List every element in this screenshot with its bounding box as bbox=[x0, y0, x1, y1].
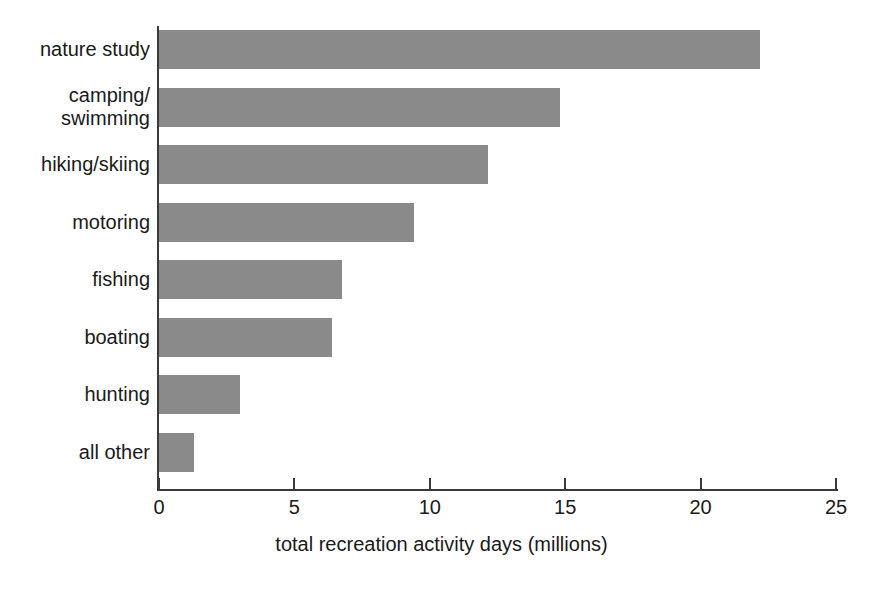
bar bbox=[159, 145, 488, 184]
x-axis-tick-label: 25 bbox=[806, 496, 866, 519]
bar bbox=[159, 203, 414, 242]
x-axis-tick bbox=[293, 478, 295, 490]
category-label-line: boating bbox=[0, 326, 150, 349]
category-label-line: nature study bbox=[0, 38, 150, 61]
category-label-line: swimming bbox=[0, 107, 150, 130]
bar-chart: nature studycamping/swimminghiking/skiin… bbox=[0, 0, 883, 601]
category-label: nature study bbox=[0, 38, 150, 61]
category-label-line: hiking/skiing bbox=[0, 153, 150, 176]
category-label: hiking/skiing bbox=[0, 153, 150, 176]
bar bbox=[159, 375, 240, 414]
x-axis-tick bbox=[564, 478, 566, 490]
category-label-line: fishing bbox=[0, 268, 150, 291]
bar bbox=[159, 30, 760, 69]
category-label-line: all other bbox=[0, 441, 150, 464]
x-axis-tick-label: 20 bbox=[671, 496, 731, 519]
category-label-line: motoring bbox=[0, 211, 150, 234]
category-label-line: camping/ bbox=[0, 84, 150, 107]
x-axis-tick bbox=[835, 478, 837, 490]
x-axis-tick-label: 15 bbox=[535, 496, 595, 519]
bar bbox=[159, 433, 194, 472]
category-label-line: hunting bbox=[0, 383, 150, 406]
bar bbox=[159, 260, 342, 299]
bar bbox=[159, 88, 560, 127]
category-label: all other bbox=[0, 441, 150, 464]
x-axis-tick-label: 0 bbox=[129, 496, 189, 519]
x-axis-tick bbox=[429, 478, 431, 490]
category-label: boating bbox=[0, 326, 150, 349]
x-axis-tick bbox=[158, 478, 160, 490]
x-axis-line bbox=[157, 489, 838, 491]
x-axis-tick-label: 5 bbox=[264, 496, 324, 519]
x-axis-title: total recreation activity days (millions… bbox=[0, 533, 883, 556]
category-label: motoring bbox=[0, 211, 150, 234]
bar bbox=[159, 318, 332, 357]
category-label: camping/swimming bbox=[0, 84, 150, 130]
x-axis-tick-label: 10 bbox=[400, 496, 460, 519]
category-label: hunting bbox=[0, 383, 150, 406]
x-axis-tick bbox=[700, 478, 702, 490]
category-label: fishing bbox=[0, 268, 150, 291]
